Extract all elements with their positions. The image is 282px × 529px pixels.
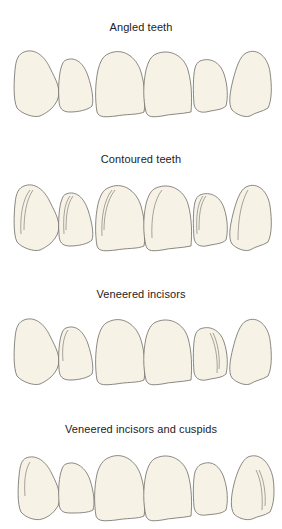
- teeth-illustration: [0, 0, 282, 130]
- tooth-left-lateral: [193, 60, 227, 113]
- tooth-right-cuspid: [14, 319, 59, 385]
- tooth-left-cuspid: [230, 185, 272, 250]
- tooth-right-cuspid-veneered: [18, 457, 60, 520]
- tooth-left-central: [144, 52, 192, 117]
- teeth-illustration: [0, 130, 282, 265]
- tooth-right-cuspid: [14, 51, 59, 117]
- teeth-illustration: [0, 265, 282, 400]
- tooth-left-lateral: [193, 463, 227, 515]
- panel-contoured-teeth: Contoured teeth: [0, 130, 282, 265]
- tooth-right-central: [96, 186, 145, 251]
- panel-veneered-incisors-and-cuspids: Veneered incisors and cuspids: [0, 400, 282, 529]
- tooth-left-lateral: [193, 194, 227, 247]
- tooth-right-lateral: [59, 59, 93, 112]
- tooth-left-central: [144, 456, 192, 521]
- tooth-left-central: [144, 320, 192, 385]
- tooth-left-cuspid-veneered: [231, 456, 274, 520]
- tooth-left-lateral-veneered: [193, 328, 227, 381]
- panel-veneered-incisors: Veneered incisors: [0, 265, 282, 400]
- tooth-right-central: [96, 320, 145, 385]
- tooth-right-lateral: [59, 463, 94, 513]
- tooth-right-central: [95, 456, 145, 521]
- tooth-right-central: [96, 52, 145, 117]
- tooth-left-cuspid: [230, 51, 272, 116]
- panel-angled-teeth: Angled teeth: [0, 0, 282, 130]
- tooth-left-central: [144, 186, 192, 251]
- teeth-illustration: [0, 400, 282, 529]
- tooth-left-cuspid: [230, 319, 272, 384]
- tooth-right-lateral-veneered: [59, 327, 93, 380]
